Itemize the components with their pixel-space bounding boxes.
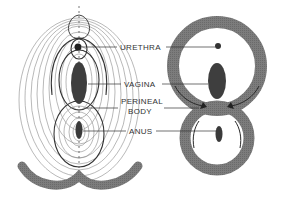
perineal-body-label-line2: BODY [128,107,152,116]
pelvic-floor-diagram: URETHRA VAGINA PERINEAL BODY ANUS [0,0,289,199]
lower-flow-right [235,121,241,148]
pubococcygeal-sling [22,166,138,185]
right-vagina-opening [208,63,226,99]
perineal-body-label-line1: PERINEAL [121,97,163,106]
right-urethra-opening [215,43,221,49]
vagina-label: VAGINA [124,80,156,89]
lower-flow-left [193,121,199,148]
anus-label: ANUS [129,127,152,136]
left-urethra-opening [75,44,82,51]
left-anus-opening [76,121,83,139]
left-vagina-opening [71,62,87,104]
urethra-label: URETHRA [120,43,161,52]
right-anus-opening [216,126,223,142]
right-panel [173,22,261,170]
